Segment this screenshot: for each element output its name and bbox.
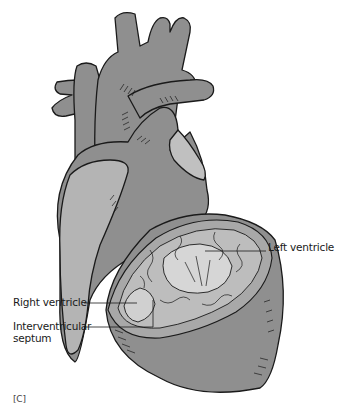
panel-label: [C] [13,393,26,405]
label-left-ventricle: Left ventricle [268,241,334,253]
label-interventricular-septum: Interventricular septum [13,320,93,344]
heart-illustration [0,0,340,412]
label-right-ventricle: Right ventricle [13,296,87,308]
